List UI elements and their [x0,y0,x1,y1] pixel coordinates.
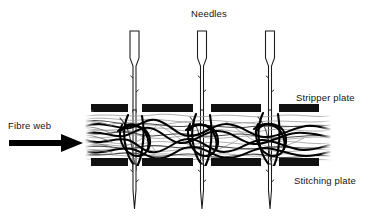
label-stitching-plate: Stitching plate [294,176,356,186]
plate-bar-icon [91,104,128,112]
needle-icon [198,31,207,112]
plate-bar-icon [279,104,319,112]
plate-bar-icon [142,104,193,112]
needle-tip-icon [269,164,272,209]
needle-punching-diagram: Needles Stripper plate Stitching plate F… [0,0,371,217]
label-stripper-plate: Stripper plate [296,93,355,103]
needle-group-upper [130,31,275,112]
label-needles: Needles [191,9,227,19]
plate-bar-icon [142,158,193,166]
needle-tip-icon [133,164,136,209]
plate-bar-icon [211,104,261,112]
plate-bar-icon [91,158,128,166]
arrow-right-icon [9,134,83,152]
label-fibre-web: Fibre web [8,121,51,131]
needle-icon [130,31,139,112]
needle-icon [266,31,275,112]
needle-tip-icon [201,164,204,209]
plate-bar-icon [279,158,319,166]
needle-group-lower [133,164,272,209]
plate-bar-icon [211,158,261,166]
stripper-plate [91,104,319,112]
